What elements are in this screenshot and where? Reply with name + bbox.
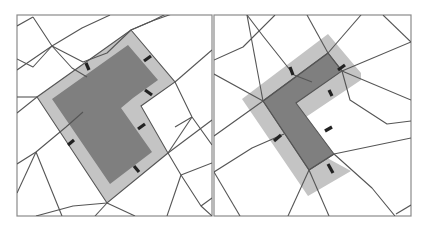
right-panel (214, 15, 411, 216)
left-panel (17, 10, 212, 216)
diagram-canvas (0, 0, 424, 231)
